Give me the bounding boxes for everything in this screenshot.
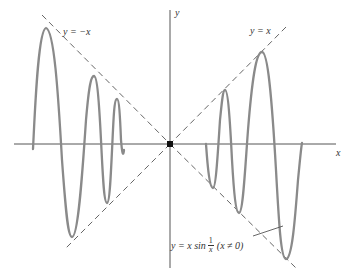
formula-lhs: y = x sin — [171, 240, 206, 251]
fraction-denominator: x — [209, 246, 213, 254]
curve-formula-label: y = x sin 1 x (x ≠ 0) — [171, 237, 243, 254]
line-y-equals-x — [170, 27, 286, 144]
origin-point — [167, 141, 173, 147]
formula-condition: (x ≠ 0) — [217, 240, 244, 251]
curve-right-branch — [206, 52, 302, 259]
diagram-canvas — [0, 0, 351, 276]
line-y-equals-neg-x — [42, 15, 170, 144]
pos-diagonal-label: y = x — [250, 25, 271, 36]
neg-diagonal-label: y = −x — [63, 26, 90, 37]
x-axis-label: x — [336, 147, 340, 158]
curve-left-branch — [33, 28, 124, 237]
label-pointer — [253, 226, 283, 236]
y-axis-label: y — [175, 7, 179, 18]
formula-fraction: 1 x — [208, 237, 214, 254]
